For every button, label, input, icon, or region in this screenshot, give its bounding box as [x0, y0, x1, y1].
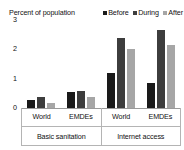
legend-label-after: After [168, 9, 183, 17]
category-label: World [22, 108, 61, 126]
bar-group [141, 20, 181, 108]
y-axis-tick-3: 3 [13, 16, 17, 24]
legend-swatch-before [103, 11, 107, 15]
bar-during[interactable] [77, 91, 85, 108]
chart-legend: Before During After [75, 9, 183, 17]
supercategory-label: Internet access [102, 127, 181, 146]
bar-after[interactable] [167, 45, 175, 108]
chart-title: Percent of population [9, 9, 75, 17]
category-label: EMDEs [61, 108, 101, 126]
bar-group [21, 20, 61, 108]
bar-chart: Percent of population Before During Afte… [0, 0, 184, 150]
chart-header: Percent of population Before During Afte… [0, 7, 184, 19]
bar-during[interactable] [37, 97, 45, 108]
legend-item-during: During [133, 9, 159, 17]
bar-group [61, 20, 101, 108]
legend-label-before: Before [108, 9, 129, 17]
category-label-table: WorldEMDEsWorldEMDEs Basic sanitationInt… [21, 108, 181, 146]
y-axis-tick-2: 2 [13, 45, 17, 53]
bar-group [101, 20, 141, 108]
bar-during[interactable] [117, 38, 125, 108]
y-axis-tick-0: 0 [13, 104, 17, 112]
category-label: EMDEs [141, 108, 180, 126]
legend-swatch-after [163, 11, 167, 15]
bar-before[interactable] [107, 73, 115, 108]
category-row: WorldEMDEsWorldEMDEs [22, 108, 180, 127]
bar-before[interactable] [27, 100, 35, 108]
y-axis-tick-1: 1 [13, 75, 17, 83]
bar-before[interactable] [67, 92, 75, 108]
bar-after[interactable] [87, 97, 95, 108]
bar-during[interactable] [157, 30, 165, 108]
legend-label-during: During [138, 9, 159, 17]
supercategory-label: Basic sanitation [22, 127, 102, 146]
supercategory-row: Basic sanitationInternet access [22, 127, 180, 146]
legend-swatch-during [133, 11, 137, 15]
category-label: World [102, 108, 141, 126]
bar-after[interactable] [127, 49, 135, 108]
legend-item-before: Before [103, 9, 129, 17]
plot-area [21, 20, 181, 108]
legend-item-after: After [163, 9, 183, 17]
bar-before[interactable] [147, 83, 155, 108]
y-axis: 0123 [0, 20, 20, 112]
